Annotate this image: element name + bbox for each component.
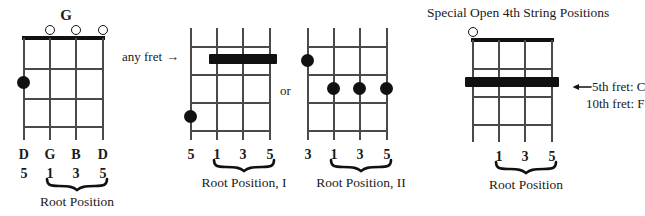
string-1	[190, 28, 192, 140]
diagram-caption: Root Position, II	[316, 176, 406, 190]
fretboard-root-position-ii	[307, 28, 388, 140]
or-label: or	[280, 84, 291, 97]
fretboard-special-open-4th	[472, 40, 553, 142]
any-fret-text: any fret	[122, 49, 162, 64]
chord-name: G	[60, 8, 72, 23]
special-positions-title: Special Open 4th String Positions	[427, 6, 609, 20]
root-position-brace	[46, 178, 108, 190]
string-4	[269, 28, 271, 140]
open-string-marker	[71, 25, 81, 35]
open-string-marker	[468, 27, 478, 37]
fret-note-5th: 5th fret: C	[592, 80, 645, 93]
string-2	[498, 40, 500, 142]
open-string-marker	[98, 25, 108, 35]
fret-line	[472, 96, 553, 98]
fret-line	[307, 74, 388, 76]
string-2	[216, 28, 218, 140]
fret-line	[190, 102, 271, 104]
fret-line	[472, 124, 553, 126]
string-note-label: D	[19, 148, 29, 162]
fret-note-arrow-icon	[572, 82, 592, 92]
string-2	[49, 38, 51, 140]
finger-dot	[301, 54, 314, 67]
root-position-brace	[330, 159, 392, 171]
string-4	[102, 38, 104, 140]
scale-degree-label: 5	[188, 148, 195, 162]
open-string-marker	[45, 25, 55, 35]
barre-bar	[209, 54, 277, 64]
string-note-label: B	[71, 148, 81, 162]
root-position-brace	[213, 159, 275, 171]
finger-dot	[327, 82, 340, 95]
string-3	[524, 40, 526, 142]
string-1	[23, 38, 25, 140]
fretboard-root-position-i	[190, 28, 271, 140]
scale-degree-label: 5	[21, 167, 28, 181]
diagram-caption: Root Position	[489, 178, 563, 192]
barre-bar	[465, 77, 559, 87]
fret-note-10th: 10th fret: F	[586, 97, 645, 110]
fret-line	[307, 102, 388, 104]
nut	[471, 38, 554, 42]
string-note-label: D	[98, 148, 108, 162]
fretboard-g-open	[23, 38, 104, 140]
fret-line	[190, 130, 271, 132]
string-note-label: G	[44, 148, 55, 162]
fret-line	[472, 68, 553, 70]
string-3	[242, 28, 244, 140]
arrow-right-icon: →	[166, 49, 179, 64]
any-fret-label: any fret→	[122, 50, 179, 63]
string-1	[307, 28, 309, 140]
fret-line	[307, 130, 388, 132]
finger-dot	[184, 110, 197, 123]
scale-degree-label: 3	[305, 148, 312, 162]
diagram-caption: Root Position	[40, 195, 114, 209]
finger-dot	[353, 82, 366, 95]
nut	[22, 36, 105, 40]
fret-line	[23, 68, 104, 70]
finger-dot	[17, 76, 30, 89]
fret-line	[190, 46, 271, 48]
string-4	[551, 40, 553, 142]
string-3	[75, 38, 77, 140]
fret-line	[307, 46, 388, 48]
string-1	[472, 40, 474, 142]
fret-line	[23, 126, 104, 128]
fret-line	[23, 98, 104, 100]
finger-dot	[380, 82, 393, 95]
diagram-caption: Root Position, I	[201, 176, 286, 190]
fret-line	[190, 74, 271, 76]
root-position-brace	[495, 161, 557, 173]
